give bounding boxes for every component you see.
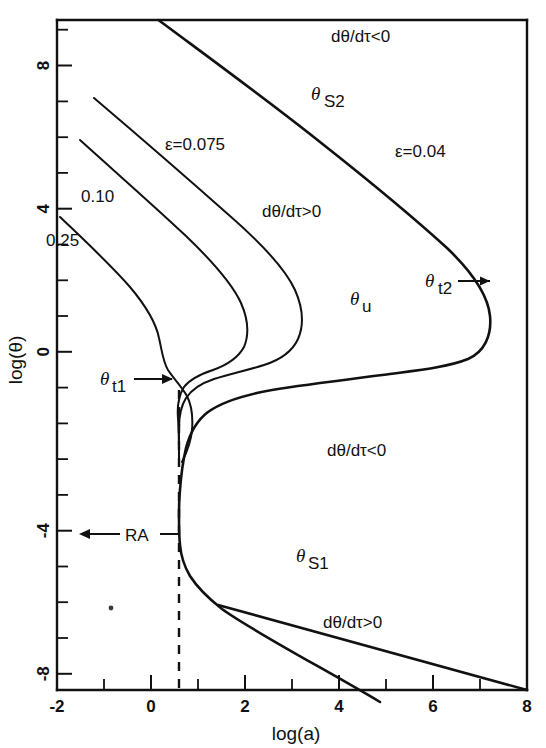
phase-diagram-chart: 8 4 0 -4 -8 -2 0 2 4 6 8 log(a) log(θ) xyxy=(0,0,546,748)
x-tick-label-2: 2 xyxy=(240,697,249,716)
annotation-ra-label: RA xyxy=(125,526,149,545)
figure-root: 8 4 0 -4 -8 -2 0 2 4 6 8 log(a) log(θ) xyxy=(0,0,546,748)
y-tick-label-neg8: -8 xyxy=(34,666,53,681)
annotation-dtheta-lower: dθ/dτ<0 xyxy=(327,441,386,460)
x-tick-label-8: 8 xyxy=(522,697,531,716)
curve-label-025 xyxy=(60,217,192,462)
y-tick-label-4: 4 xyxy=(34,203,53,213)
svg-text:t1: t1 xyxy=(112,377,126,396)
annotation-label-010: 0.10 xyxy=(81,187,114,206)
svg-text:θ: θ xyxy=(100,368,109,389)
annotation-eps-0075: ε=0.075 xyxy=(165,135,225,154)
x-axis-title: log(a) xyxy=(272,723,321,744)
annotation-dtheta-top: dθ/dτ<0 xyxy=(331,27,390,46)
y-tick-labels: 8 4 0 -4 -8 xyxy=(34,61,53,682)
svg-text:θ: θ xyxy=(296,545,305,566)
svg-text:S1: S1 xyxy=(308,554,329,573)
x-tick-label-4: 4 xyxy=(334,697,344,716)
svg-text:u: u xyxy=(362,297,371,316)
arrow-right-theta-t1 xyxy=(134,374,173,384)
annotation-theta-s2: θ S2 xyxy=(311,83,345,111)
svg-text:t2: t2 xyxy=(438,279,452,298)
y-tick-label-0: 0 xyxy=(34,347,53,356)
annotation-theta-s1: θ S1 xyxy=(296,545,329,573)
curve-eps-004 xyxy=(159,20,491,702)
svg-text:θ: θ xyxy=(425,270,434,291)
annotation-ra: RA xyxy=(79,526,179,545)
y-tick-label-neg4: -4 xyxy=(34,523,53,539)
stray-dot-marker xyxy=(109,606,114,611)
annotation-theta-t1: θ t1 xyxy=(100,368,173,396)
annotation-dtheta-bottom: dθ/dτ>0 xyxy=(323,613,382,632)
x-tick-label-6: 6 xyxy=(428,697,437,716)
x-axis-ticks xyxy=(57,675,527,690)
x-tick-label-0: 0 xyxy=(146,697,155,716)
svg-text:θ: θ xyxy=(350,288,359,309)
annotation-eps-004: ε=0.04 xyxy=(395,142,446,161)
arrow-left-ra xyxy=(79,529,120,539)
y-axis-title: log(θ) xyxy=(5,336,26,385)
y-axis-ticks xyxy=(57,30,72,674)
annotation-theta-t2: θ t2 xyxy=(425,270,490,298)
svg-text:θ: θ xyxy=(311,83,320,104)
y-tick-label-8: 8 xyxy=(34,61,53,70)
annotation-label-025: 0.25 xyxy=(46,231,79,250)
svg-text:S2: S2 xyxy=(324,92,345,111)
annotation-dtheta-mid: dθ/dτ>0 xyxy=(262,202,321,221)
x-tick-label-neg2: -2 xyxy=(49,697,64,716)
x-tick-labels: -2 0 2 4 6 8 xyxy=(49,697,531,716)
annotation-theta-u: θ u xyxy=(350,288,371,316)
